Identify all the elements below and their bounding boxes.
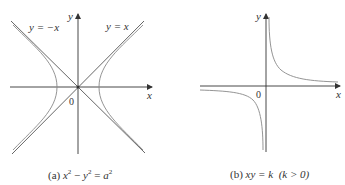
graph-b: y x 0: [200, 10, 341, 152]
asymptote-left-label: y = −x: [28, 21, 59, 33]
graph-a: y x 0 y = −x y = x: [10, 10, 152, 154]
curve-first-quadrant: [269, 17, 338, 82]
x-axis-label-b: x: [335, 88, 341, 100]
caption-a-eq: =: [91, 169, 103, 181]
caption-a: (a) x2 − y2 = a2: [48, 168, 112, 181]
caption-b-equation: xy = k: [246, 168, 274, 180]
caption-b-condition: (k > 0): [279, 168, 310, 180]
caption-b-prefix: (b): [230, 168, 243, 180]
caption-b: (b) xy = k (k > 0): [230, 168, 309, 180]
caption-a-prefix: (a): [48, 169, 60, 181]
y-axis-label-b: y: [255, 10, 261, 22]
origin-label-a: 0: [69, 96, 74, 107]
asymptote-right-label: y = x: [105, 20, 129, 32]
origin-dot-a: [77, 86, 80, 89]
x-axis-label-a: x: [146, 89, 152, 101]
hyperbola-figures: y x 0 y = −x y = x y x 0: [0, 0, 345, 185]
origin-label-b: 0: [256, 89, 261, 100]
y-axis-label-a: y: [67, 10, 73, 22]
curve-third-quadrant: [200, 90, 263, 150]
caption-a-minus: −: [71, 169, 83, 181]
caption-a-exp3: 2: [109, 168, 113, 176]
